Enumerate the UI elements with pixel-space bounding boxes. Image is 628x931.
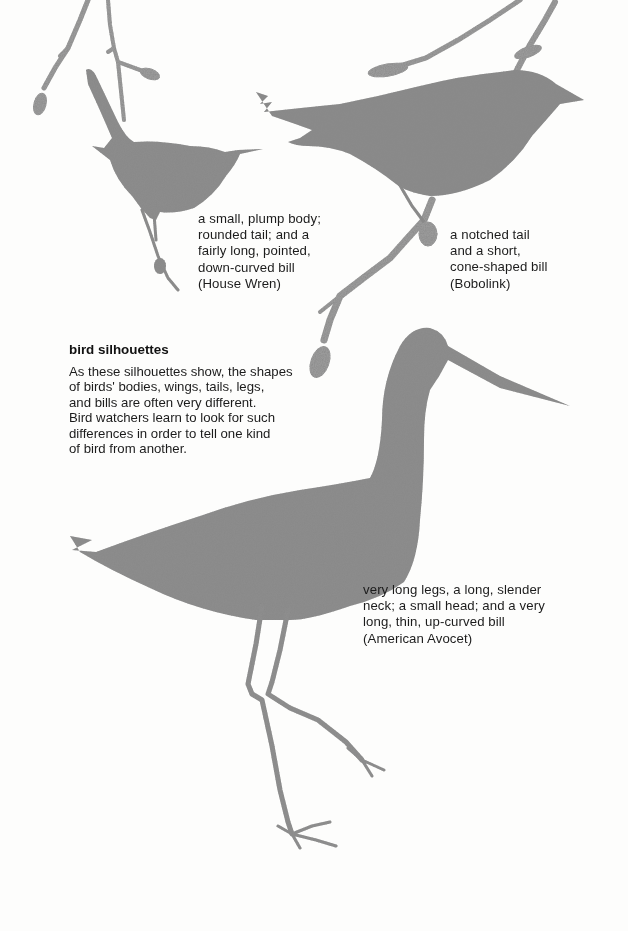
intro-section: bird silhouettes As these silhouettes sh… bbox=[69, 342, 319, 456]
caption-line: (House Wren) bbox=[198, 276, 321, 292]
intro-line: of bird from another. bbox=[69, 441, 319, 456]
wren-feet bbox=[142, 210, 178, 290]
bobolink-silhouette bbox=[256, 70, 584, 196]
intro-line: of birds' bodies, wings, tails, legs, bbox=[69, 379, 319, 394]
caption-line: cone-shaped bill bbox=[450, 259, 548, 275]
caption-line: a small, plump body; bbox=[198, 211, 321, 227]
section-heading: bird silhouettes bbox=[69, 342, 319, 358]
caption-line: long, thin, up-curved bill bbox=[363, 614, 545, 630]
house-wren-silhouette bbox=[86, 69, 263, 220]
caption-line: a notched tail bbox=[450, 227, 548, 243]
house-wren-caption: a small, plump body; rounded tail; and a… bbox=[198, 211, 321, 292]
intro-line: As these silhouettes show, the shapes bbox=[69, 364, 319, 379]
caption-line: (American Avocet) bbox=[363, 631, 545, 647]
caption-line: very long legs, a long, slender bbox=[363, 582, 545, 598]
caption-line: rounded tail; and a bbox=[198, 227, 321, 243]
intro-paragraph: As these silhouettes show, the shapes of… bbox=[69, 364, 319, 456]
bobolink-caption: a notched tail and a short, cone-shaped … bbox=[450, 227, 548, 292]
intro-line: Bird watchers learn to look for such bbox=[69, 410, 319, 425]
caption-line: fairly long, pointed, bbox=[198, 243, 321, 259]
caption-line: down-curved bill bbox=[198, 260, 321, 276]
illustration bbox=[0, 0, 628, 931]
intro-line: and bills are often very different. bbox=[69, 395, 319, 410]
intro-line: differences in order to tell one kind bbox=[69, 426, 319, 441]
american-avocet-caption: very long legs, a long, slender neck; a … bbox=[363, 582, 545, 647]
caption-line: and a short, bbox=[450, 243, 548, 259]
caption-line: neck; a small head; and a very bbox=[363, 598, 545, 614]
caption-line: (Bobolink) bbox=[450, 276, 548, 292]
